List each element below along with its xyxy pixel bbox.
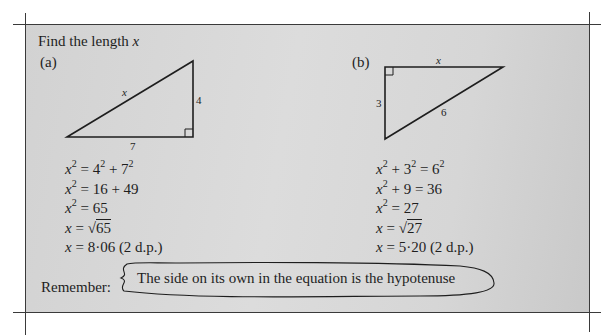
part-b-label: (b) xyxy=(352,54,370,71)
step-variable: x xyxy=(65,220,72,236)
exponent: 2 xyxy=(383,178,388,189)
working-a-step-3: x2 = 65 xyxy=(65,199,163,219)
step-expression: = 16 + 49 xyxy=(80,181,138,197)
exponent: 2 xyxy=(383,197,388,208)
working-b-step-5: x = 5·20 (2 d.p.) xyxy=(376,238,474,258)
working-a: x2 = 42 + 72 x2 = 16 + 49 x2 = 65 x = √6… xyxy=(65,160,163,258)
working-a-step-4: x = √65 xyxy=(65,219,163,239)
bottom-rule xyxy=(13,312,601,313)
radicand: 27 xyxy=(407,219,422,236)
working-b-step-2: x2 + 9 = 36 xyxy=(376,180,474,200)
step-variable: x xyxy=(376,239,383,255)
working-a-step-5: x = 8·06 (2 d.p.) xyxy=(65,238,163,258)
exponent: 2 xyxy=(383,158,388,169)
working-b: x2 + 32 = 62 x2 + 9 = 36 x2 = 27 x = √27… xyxy=(376,160,474,258)
exponent: 2 xyxy=(440,158,445,169)
triangle-b-hypotenuse-label: 6 xyxy=(441,106,447,118)
step-variable: x xyxy=(376,220,383,236)
step-variable: x xyxy=(376,200,383,216)
top-rule xyxy=(13,24,601,25)
square-root: √27 xyxy=(399,219,422,239)
left-rule xyxy=(25,13,26,335)
step-variable: x xyxy=(376,161,383,177)
triangle-a-hypotenuse-label: x xyxy=(122,86,127,98)
step-expression: = xyxy=(383,220,399,236)
radicand: 65 xyxy=(96,219,111,236)
step-expression: + 9 = 36 xyxy=(388,181,442,197)
exponent: 2 xyxy=(411,158,416,169)
working-b-step-4: x = √27 xyxy=(376,219,474,239)
step-expression: = 65 xyxy=(80,200,107,216)
triangle-b-vertical-label: 3 xyxy=(376,97,382,109)
step-expression: = 4 xyxy=(80,161,100,177)
step-variable: x xyxy=(65,200,72,216)
triangle-a-vertical-label: 4 xyxy=(196,94,202,106)
step-expression: = xyxy=(75,220,87,236)
title-variable: x xyxy=(133,33,140,49)
triangle-a-base-label: 7 xyxy=(130,140,136,152)
working-a-step-1: x2 = 42 + 72 xyxy=(65,160,163,180)
step-expression: = 27 xyxy=(388,200,419,216)
square-root: √65 xyxy=(88,219,111,239)
step-variable: x xyxy=(65,239,72,255)
working-a-step-2: x2 = 16 + 49 xyxy=(65,180,163,200)
exponent: 2 xyxy=(72,178,77,189)
exponent: 2 xyxy=(100,158,105,169)
step-variable: x xyxy=(376,181,383,197)
exponent: 2 xyxy=(72,197,77,208)
step-expression: + 7 xyxy=(105,161,128,177)
remember-note: The side on its own in the equation is t… xyxy=(137,270,455,287)
part-a-label: (a) xyxy=(40,54,57,71)
remember-label: Remember: xyxy=(41,279,111,296)
exponent: 2 xyxy=(72,158,77,169)
step-result: = 8·06 (2 d.p.) xyxy=(75,239,162,255)
working-b-step-1: x2 + 32 = 62 xyxy=(376,160,474,180)
exercise-title: Find the length x xyxy=(38,33,139,50)
triangle-b-top-label: x xyxy=(436,54,441,66)
exponent: 2 xyxy=(129,158,134,169)
title-text: Find the length xyxy=(38,33,133,49)
step-result: = 5·20 (2 d.p.) xyxy=(383,239,474,255)
step-variable: x xyxy=(65,161,72,177)
step-variable: x xyxy=(65,181,72,197)
right-rule xyxy=(589,12,590,332)
step-expression: + 3 xyxy=(388,161,411,177)
working-b-step-3: x2 = 27 xyxy=(376,199,474,219)
step-expression: = 6 xyxy=(416,161,439,177)
